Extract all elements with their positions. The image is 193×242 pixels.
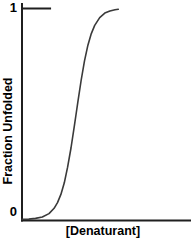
y-axis-title: Fraction Unfolded [1,78,15,185]
chart-canvas [0,0,193,242]
fraction-unfolded-curve [22,9,118,219]
y-tick-label-1: 1 [0,1,17,15]
y-tick-label-0: 0 [0,205,17,219]
x-axis-title: [Denaturant] [66,224,140,238]
protein-unfolding-curve-figure: 1 0 Fraction Unfolded [Denaturant] [0,0,193,242]
